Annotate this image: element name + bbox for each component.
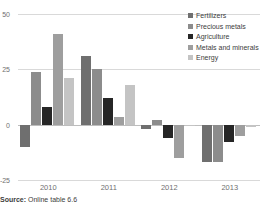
legend-item-label: Energy	[196, 53, 218, 62]
bar	[235, 125, 245, 136]
source-label: Source:	[0, 196, 26, 203]
bar	[64, 78, 74, 124]
y-axis-tick-label: 0	[0, 121, 10, 128]
bar	[92, 69, 102, 124]
y-axis-tick-label: -25	[0, 177, 10, 184]
x-axis-tick-label: 2012	[161, 183, 178, 192]
legend-swatch-icon	[188, 13, 193, 18]
legend-swatch-icon	[188, 34, 193, 39]
legend-item[interactable]: Agriculture	[188, 32, 259, 41]
x-axis-tick-label: 2011	[101, 183, 117, 192]
source-note: Source: Online table 6.6	[0, 196, 77, 203]
legend-swatch-icon	[188, 24, 193, 29]
bar	[81, 56, 91, 125]
bar	[31, 72, 41, 125]
legend-item[interactable]: Energy	[188, 53, 259, 62]
bar	[125, 85, 135, 125]
legend-item-label: Precious metals	[196, 22, 246, 31]
y-axis-tick-label: 50	[0, 11, 10, 18]
x-axis: 2010201120122013	[18, 181, 260, 195]
bar	[163, 125, 173, 138]
source-text: Online table 6.6	[28, 196, 77, 203]
legend-item-label: Agriculture	[196, 32, 229, 41]
legend-item[interactable]: Metals and minerals	[188, 43, 259, 52]
bar	[185, 125, 195, 126]
y-axis-tick-label: 25	[0, 66, 10, 73]
legend-swatch-icon	[188, 45, 193, 50]
bar	[174, 125, 184, 158]
bar	[53, 34, 63, 125]
chart-container: 50250-25 2010201120122013 FertilizersPre…	[0, 0, 266, 205]
x-axis-tick-label: 2013	[221, 183, 238, 192]
bar	[152, 120, 162, 124]
x-axis-tick-label: 2010	[40, 183, 57, 192]
legend-item[interactable]: Fertilizers	[188, 11, 259, 20]
bar	[114, 117, 124, 125]
bar	[202, 125, 212, 163]
legend-item-label: Fertilizers	[196, 11, 226, 20]
bar	[246, 125, 256, 127]
bar	[20, 125, 30, 147]
bar	[42, 107, 52, 125]
chart-legend: FertilizersPrecious metalsAgricultureMet…	[188, 11, 259, 62]
bar	[103, 98, 113, 125]
legend-swatch-icon	[188, 55, 193, 60]
bar	[213, 125, 223, 163]
legend-item-label: Metals and minerals	[196, 43, 259, 52]
legend-item[interactable]: Precious metals	[188, 22, 259, 31]
bar	[224, 125, 234, 143]
bar	[141, 125, 151, 129]
